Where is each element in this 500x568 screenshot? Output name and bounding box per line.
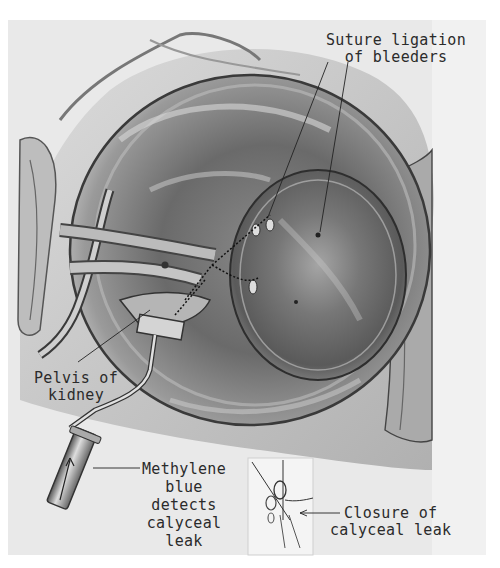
label-methylene-blue: Methylene blue detects calyceal leak xyxy=(142,460,226,550)
label-pelvis-of-kidney: Pelvis of kidney xyxy=(34,370,118,404)
inset-box xyxy=(248,458,313,555)
label-closure-calyceal-leak: Closure of calyceal leak xyxy=(330,505,451,539)
side-strip xyxy=(432,20,486,555)
kidney xyxy=(230,170,406,380)
label-suture-ligation: Suture ligation of bleeders xyxy=(326,32,466,66)
surgical-illustration xyxy=(0,0,500,568)
